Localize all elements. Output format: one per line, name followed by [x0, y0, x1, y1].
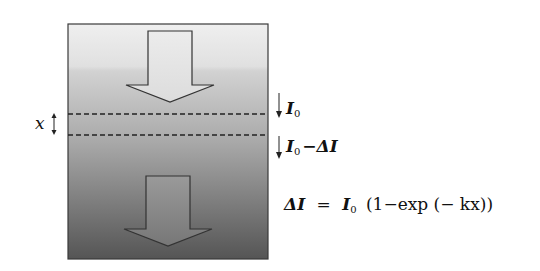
- diagram-canvas: [0, 0, 540, 271]
- thickness-symbol: x: [35, 113, 45, 133]
- intensity-symbol: I: [286, 98, 294, 118]
- absorption-diagram: x I0 I0−ΔI ΔI = I0 (1−exp (− kx)): [0, 0, 540, 271]
- incident-intensity-label: I0: [286, 98, 300, 118]
- equation-intensity-symbol: I: [342, 194, 350, 214]
- equation-lhs: ΔI: [284, 194, 305, 214]
- intensity-loss: −ΔI: [302, 136, 337, 156]
- intensity-subscript: 0: [294, 108, 300, 119]
- absorption-equation: ΔI = I0 (1−exp (− kx)): [284, 194, 493, 214]
- intensity-arrow-bottom-icon: [276, 136, 282, 159]
- intensity-arrow-top-icon: [276, 93, 282, 118]
- transmitted-intensity-label: I0−ΔI: [286, 136, 338, 156]
- intensity-subscript: 0: [294, 146, 300, 157]
- thickness-arrow-icon: [52, 113, 57, 135]
- intensity-symbol: I: [286, 136, 294, 156]
- equation-rhs: (1−exp (− kx)): [366, 194, 493, 214]
- thickness-label: x: [35, 113, 45, 133]
- equation-intensity-subscript: 0: [350, 204, 356, 215]
- equation-equals: =: [317, 194, 331, 214]
